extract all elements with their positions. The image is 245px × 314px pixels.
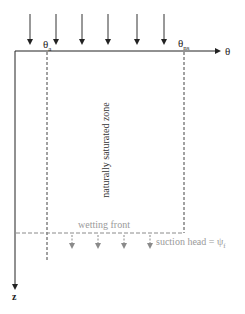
infiltration-diagram: θa θns θ z naturally saturated zone wett… <box>0 0 245 314</box>
theta-a-subscript: a <box>48 45 51 53</box>
suction-head-subscript: f <box>223 242 225 250</box>
wetting-front-label: wetting front <box>78 220 130 230</box>
theta-ns-label: θns <box>178 38 190 52</box>
suction-head-label: suction head = ψf <box>156 237 226 250</box>
suction-arrows <box>72 235 150 246</box>
theta-axis-label: θ <box>225 46 230 57</box>
suction-head-text: suction head = ψ <box>156 236 223 247</box>
rain-arrows <box>30 14 164 42</box>
theta-ns-subscript: ns <box>183 44 189 52</box>
theta-a-label: θa <box>43 39 51 53</box>
z-axis-label: z <box>12 292 16 302</box>
diagram-graphics <box>0 0 245 314</box>
saturated-zone-label: naturally saturated zone <box>100 102 111 198</box>
